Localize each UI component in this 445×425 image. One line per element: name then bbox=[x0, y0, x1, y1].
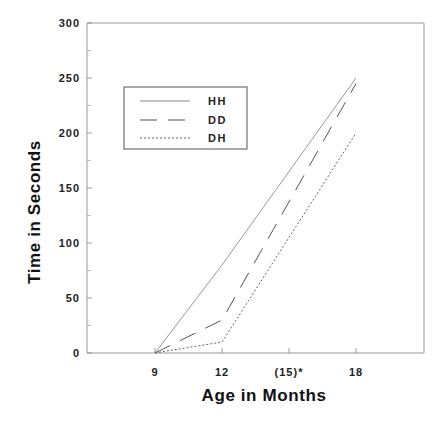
y-tick-label: 300 bbox=[59, 17, 80, 29]
y-tick-label: 200 bbox=[59, 127, 80, 139]
x-axis-title: Age in Months bbox=[202, 386, 327, 405]
legend: HH DD DH bbox=[124, 87, 247, 149]
y-tick-label: 100 bbox=[59, 237, 80, 249]
legend-label-dh: DH bbox=[208, 132, 227, 144]
x-tick-label: 18 bbox=[349, 366, 363, 378]
series-line-dh bbox=[155, 133, 356, 353]
line-chart: 050100150200250300 912(15)*18 HH DD DH A… bbox=[0, 0, 445, 425]
y-tick-label: 0 bbox=[73, 347, 80, 359]
y-tick-label: 250 bbox=[59, 72, 80, 84]
y-tick-label: 50 bbox=[66, 292, 80, 304]
y-axis-title: Time in Seconds bbox=[25, 140, 44, 284]
plot-frame bbox=[87, 23, 424, 353]
legend-box bbox=[124, 87, 247, 149]
y-tick-label: 150 bbox=[59, 182, 80, 194]
legend-label-hh: HH bbox=[208, 95, 227, 107]
x-tick-label: (15)* bbox=[275, 366, 304, 378]
x-tick-label: 9 bbox=[151, 366, 158, 378]
x-tick-label: 12 bbox=[215, 366, 229, 378]
legend-label-dd: DD bbox=[208, 114, 227, 126]
